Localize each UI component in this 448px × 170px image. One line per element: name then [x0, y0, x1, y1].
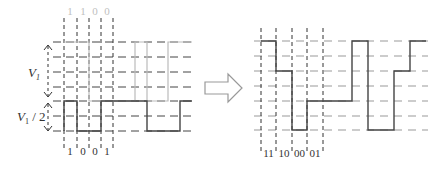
right-diagram: 11 10 00 01 [254, 28, 428, 159]
left-diagram: V1 V1 / 2 1 1 0 0 1 0 0 1 [17, 5, 193, 157]
v1-amplitude-arrow [44, 45, 52, 97]
svg-text:1: 1 [80, 5, 86, 17]
right-horizontal-gridlines [254, 41, 428, 130]
left-horizontal-gridlines [53, 42, 193, 131]
right-arrow-icon [205, 74, 242, 102]
top-bit-labels: 1 1 0 0 [67, 5, 110, 17]
svg-text:1: 1 [67, 5, 73, 17]
v1-label: V1 [28, 65, 40, 82]
svg-text:0: 0 [92, 145, 98, 157]
v1-half-label: V1 / 2 [17, 109, 46, 126]
svg-text:10: 10 [279, 147, 291, 159]
svg-text:0: 0 [104, 5, 110, 17]
svg-text:1: 1 [104, 145, 110, 157]
svg-text:0: 0 [92, 5, 98, 17]
svg-text:1: 1 [67, 145, 73, 157]
svg-text:0: 0 [80, 145, 86, 157]
diagram-canvas: V1 V1 / 2 1 1 0 0 1 0 0 1 [0, 0, 448, 170]
svg-text:11: 11 [263, 147, 274, 159]
svg-text:00: 00 [294, 147, 306, 159]
svg-text:01: 01 [310, 147, 321, 159]
